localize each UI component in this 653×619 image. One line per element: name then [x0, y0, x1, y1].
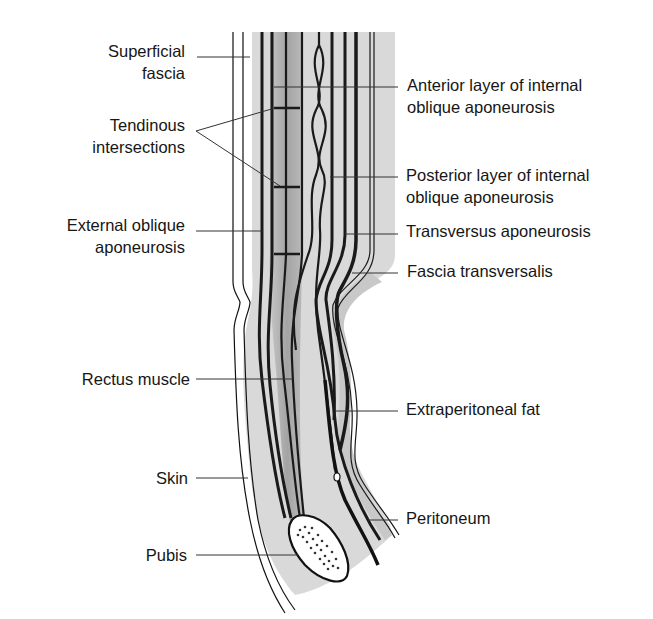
label-tendinous-intersections: Tendinous intersections	[92, 114, 185, 158]
small-loop	[334, 473, 340, 481]
label-rectus-muscle: Rectus muscle	[82, 368, 190, 390]
label-pubis: Pubis	[146, 544, 187, 566]
label-fascia-transversalis: Fascia transversalis	[407, 260, 553, 282]
anatomy-figure: Superficial fascia Tendinous intersectio…	[0, 0, 653, 619]
label-anterior-layer-internal-oblique: Anterior layer of internal oblique apone…	[407, 74, 582, 118]
label-external-oblique-aponeurosis: External oblique aponeurosis	[67, 214, 185, 258]
label-transversus-aponeurosis: Transversus aponeurosis	[406, 220, 591, 242]
label-superficial-fascia: Superficial fascia	[108, 40, 185, 84]
label-extraperitoneal-fat: Extraperitoneal fat	[406, 398, 540, 420]
label-skin: Skin	[156, 467, 188, 489]
label-posterior-layer-internal-oblique: Posterior layer of internal oblique apon…	[406, 164, 589, 208]
label-peritoneum: Peritoneum	[406, 507, 490, 529]
